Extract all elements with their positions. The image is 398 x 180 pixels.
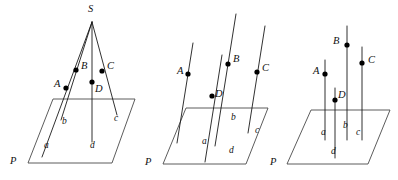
plane-p-outline-1 [28,99,135,163]
label-plane-p-2: P [145,157,151,168]
point-b-1 [73,67,78,72]
line-a-2 [177,43,193,143]
label-point-a-2: A [177,66,183,77]
plane-p-outline-2 [163,108,268,164]
point-b-3 [344,42,349,47]
label-plane-p-1: P [10,156,16,167]
label-plane-p-3: P [270,157,276,168]
label-line-d-3: d [331,147,336,157]
point-a-3 [322,71,327,76]
label-line-a-2: a [202,137,207,147]
point-d-1 [89,79,94,84]
point-c-1 [99,68,104,73]
label-line-d-1: d [90,141,95,151]
label-point-s-1: S [88,4,93,15]
point-c-2 [254,69,259,74]
label-line-d-2: d [229,146,234,156]
label-point-c-1: C [107,61,114,72]
label-line-b-1: b [62,117,67,127]
label-point-d-2: D [215,89,223,100]
point-d-3 [332,97,337,102]
label-line-c-3: c [356,128,360,138]
label-point-d-1: D [95,84,103,95]
point-c-3 [359,60,364,65]
label-line-a-1: a [44,141,49,151]
label-point-b-3: B [333,36,339,47]
label-point-d-3: D [338,90,346,101]
label-point-a-1: A [54,79,60,90]
label-line-c-1: c [114,114,118,124]
line-c-2 [248,26,265,133]
label-line-b-2: b [231,113,236,123]
label-point-a-3: A [313,66,319,77]
label-line-b-3: b [343,121,348,131]
label-point-b-2: B [233,54,239,65]
point-d-2 [209,93,214,98]
label-point-c-3: C [368,55,375,66]
point-a-1 [63,85,68,90]
point-a-2 [185,71,190,76]
plane-p-outline-3 [287,110,390,164]
point-b-2 [225,61,230,66]
line-d-2 [205,55,222,162]
label-point-c-2: C [262,63,269,74]
label-line-a-3: a [321,128,326,138]
label-point-b-1: B [81,61,87,72]
geometry-figure: S A B C D b c a d P A B C D b c a d P A … [0,0,398,180]
label-line-c-2: c [255,126,259,136]
